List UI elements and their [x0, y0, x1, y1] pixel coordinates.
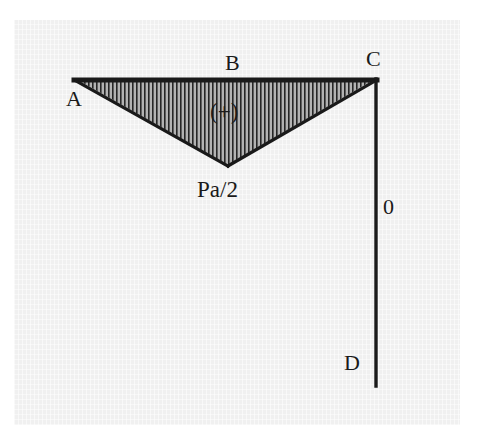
label-sign-marker: (+): [210, 100, 238, 123]
label-point-a: A: [66, 88, 82, 110]
label-zero-value: 0: [383, 196, 394, 218]
label-point-b: B: [225, 52, 240, 74]
label-point-d: D: [344, 352, 360, 374]
figure-root: A B C D 0 Pa/2 (+): [0, 0, 478, 439]
label-point-c: C: [366, 48, 381, 70]
label-peak-value: Pa/2: [197, 178, 238, 201]
